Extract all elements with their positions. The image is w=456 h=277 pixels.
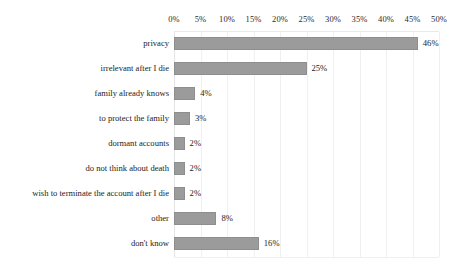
bar-row: to protect the family3% (0, 106, 456, 131)
category-label-5: do not think about death (6, 156, 174, 181)
bar-5[interactable] (174, 162, 185, 175)
bar-value-label-1: 25% (307, 56, 328, 81)
category-label-1: irrelevant after I die (6, 56, 174, 81)
x-tick-label-5: 25% (299, 13, 315, 26)
x-tick-label-3: 15% (246, 13, 262, 26)
bar-value-label-7: 8% (216, 206, 232, 231)
bar-value-label-2: 4% (195, 81, 211, 106)
category-label-3: to protect the family (6, 106, 174, 131)
bar-rows: privacy46%irrelevant after I die25%famil… (0, 31, 456, 258)
bar-7[interactable] (174, 212, 216, 225)
bar-1[interactable] (174, 62, 307, 75)
bar-3[interactable] (174, 112, 190, 125)
x-tick-label-1: 5% (195, 13, 207, 26)
x-tick-label-2: 10% (219, 13, 235, 26)
x-tick-label-10: 50% (431, 13, 447, 26)
category-label-4: dormant accounts (6, 131, 174, 156)
bar-0[interactable] (174, 37, 418, 50)
bar-row: other8% (0, 206, 456, 231)
category-label-6: wish to terminate the account after I di… (6, 181, 174, 206)
bar-8[interactable] (174, 237, 259, 250)
bar-row: privacy46% (0, 31, 456, 56)
bar-6[interactable] (174, 187, 185, 200)
bar-value-label-8: 16% (259, 231, 280, 256)
x-tick-label-8: 40% (378, 13, 394, 26)
x-tick-label-9: 45% (405, 13, 421, 26)
x-tick-label-0: 0% (168, 13, 180, 26)
category-label-0: privacy (6, 31, 174, 56)
bar-value-label-4: 2% (185, 131, 201, 156)
x-tick-label-6: 30% (325, 13, 341, 26)
bar-2[interactable] (174, 87, 195, 100)
bar-row: dormant accounts2% (0, 131, 456, 156)
x-tick-label-7: 35% (352, 13, 368, 26)
x-axis-tick-labels: 0%5%10%15%20%25%30%35%40%45%50% (0, 13, 456, 27)
bar-value-label-6: 2% (185, 181, 201, 206)
x-tick-label-4: 20% (272, 13, 288, 26)
category-label-2: family already knows (6, 81, 174, 106)
category-label-8: don't know (6, 231, 174, 256)
bar-value-label-3: 3% (190, 106, 206, 131)
bar-row: irrelevant after I die25% (0, 56, 456, 81)
bar-row: family already knows4% (0, 81, 456, 106)
bar-4[interactable] (174, 137, 185, 150)
bar-row: don't know16% (0, 231, 456, 256)
category-label-7: other (6, 206, 174, 231)
bar-chart: 0%5%10%15%20%25%30%35%40%45%50% privacy4… (0, 0, 456, 277)
bar-value-label-0: 46% (418, 31, 439, 56)
bar-value-label-5: 2% (185, 156, 201, 181)
bar-row: wish to terminate the account after I di… (0, 181, 456, 206)
bar-row: do not think about death2% (0, 156, 456, 181)
